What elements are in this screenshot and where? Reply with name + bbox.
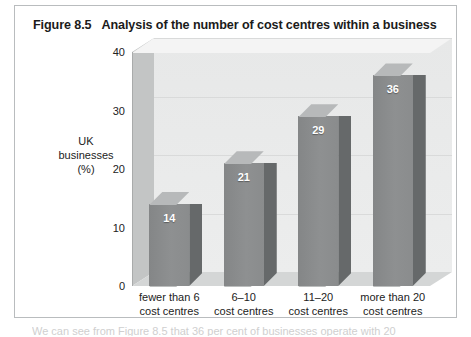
chart-wall-top-edge (132, 38, 452, 53)
y-axis-tick-label: 40 (113, 46, 125, 58)
bar-side-face (338, 116, 351, 286)
y-axis-title: UK businesses (%) (51, 134, 121, 176)
x-axis-category-line: more than 20 (350, 290, 437, 304)
y-axis-title-line-1: UK (51, 134, 121, 148)
bar[interactable]: 21 (224, 163, 264, 286)
bar-side-face (413, 75, 426, 286)
bar-value-label: 36 (373, 83, 413, 95)
figure-caption: Figure 8.5 Analysis of the number of cos… (33, 18, 437, 32)
bar-side-face (189, 204, 202, 286)
bar-front-face (373, 75, 413, 286)
body-paragraph: We can see from Figure 8.5 that 36 per c… (32, 325, 462, 336)
y-axis-tick-label: 0 (119, 280, 125, 292)
y-axis-title-line-3: (%) (51, 162, 121, 176)
figure-title: Analysis of the number of cost centres w… (101, 18, 436, 32)
gridline (154, 38, 452, 39)
chart-plot-area: 010203040 14212936 fewer than 6cost cent… (132, 52, 430, 286)
bar[interactable]: 36 (373, 75, 413, 286)
y-axis-line (132, 52, 133, 286)
bar-value-label: 21 (224, 171, 264, 183)
bar-value-label: 14 (149, 212, 189, 224)
figure-number: Figure 8.5 (33, 18, 92, 32)
bar-front-face (298, 116, 338, 286)
y-axis-tick-label: 20 (113, 163, 125, 175)
x-axis-category-label: more than 20cost centres (350, 290, 437, 318)
y-axis-title-line-2: businesses (51, 148, 121, 162)
figure-box: Figure 8.5 Analysis of the number of cos… (14, 5, 457, 318)
y-axis-tick-label: 10 (113, 222, 125, 234)
bar-side-face (264, 163, 277, 286)
x-axis-category-line: cost centres (350, 304, 437, 318)
bar[interactable]: 29 (298, 116, 338, 286)
bar-value-label: 29 (298, 124, 338, 136)
bar[interactable]: 14 (149, 204, 189, 286)
figure-page: { "figure": { "number": "Figure 8.5", "t… (0, 0, 471, 337)
y-axis-tick-label: 30 (113, 105, 125, 117)
